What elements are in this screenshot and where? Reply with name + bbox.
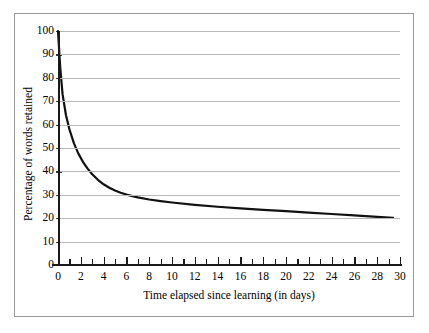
x-tick-label-14: 14 [212, 271, 224, 283]
x-tick-label-0: 0 [55, 271, 61, 283]
gridline-y-20 [58, 218, 400, 219]
x-tick-mark-15 [229, 259, 230, 264]
forgetting-curve-figure: 0102030405060708090100 02468101214161820… [0, 0, 429, 333]
x-tick-label-20: 20 [280, 271, 292, 283]
x-tick-mark-2 [81, 257, 82, 264]
x-tick-mark-4 [104, 257, 105, 264]
x-tick-label-24: 24 [326, 271, 338, 283]
x-tick-mark-1 [69, 259, 70, 264]
x-tick-mark-7 [138, 259, 139, 264]
x-tick-mark-8 [149, 257, 150, 264]
x-tick-mark-28 [377, 257, 378, 264]
x-tick-mark-13 [206, 259, 207, 264]
x-tick-mark-24 [332, 257, 333, 264]
y-tick-label-40: 40 [43, 165, 55, 177]
gridline-y-10 [58, 242, 400, 243]
x-tick-label-12: 12 [189, 271, 201, 283]
y-tick-label-70: 70 [43, 95, 55, 107]
x-tick-mark-6 [126, 257, 127, 264]
gridline-y-60 [58, 125, 400, 126]
x-tick-mark-19 [275, 259, 276, 264]
x-tick-label-30: 30 [394, 271, 406, 283]
y-tick-label-60: 60 [43, 119, 55, 131]
y-tick-label-20: 20 [43, 212, 55, 224]
plot-area [58, 31, 400, 265]
x-tick-label-26: 26 [349, 271, 361, 283]
x-tick-mark-23 [320, 259, 321, 264]
x-tick-label-16: 16 [235, 271, 247, 283]
y-tick-label-50: 50 [43, 142, 55, 154]
y-tick-label-90: 90 [43, 48, 55, 60]
gridline-y-30 [58, 195, 400, 196]
x-tick-mark-12 [195, 257, 196, 264]
y-axis-line [58, 31, 60, 265]
x-tick-mark-17 [252, 259, 253, 264]
gridline-y-50 [58, 148, 400, 149]
x-tick-mark-20 [286, 257, 287, 264]
x-tick-label-4: 4 [101, 271, 107, 283]
y-tick-label-30: 30 [43, 189, 55, 201]
x-tick-mark-22 [309, 257, 310, 264]
x-tick-mark-10 [172, 257, 173, 264]
gridline-y-100 [58, 31, 400, 32]
x-tick-mark-26 [354, 257, 355, 264]
gridline-y-80 [58, 78, 400, 79]
x-tick-label-6: 6 [124, 271, 130, 283]
y-tick-label-100: 100 [37, 25, 54, 37]
gridline-y-70 [58, 101, 400, 102]
x-tick-mark-14 [218, 257, 219, 264]
x-tick-mark-27 [366, 259, 367, 264]
x-tick-mark-3 [92, 259, 93, 264]
x-tick-label-22: 22 [303, 271, 315, 283]
x-axis-line [52, 264, 402, 266]
gridline-y-40 [58, 171, 400, 172]
x-tick-label-18: 18 [257, 271, 269, 283]
x-tick-mark-5 [115, 259, 116, 264]
x-tick-mark-18 [263, 257, 264, 264]
x-tick-label-8: 8 [146, 271, 152, 283]
x-tick-mark-0 [58, 257, 59, 264]
x-tick-mark-25 [343, 259, 344, 264]
x-tick-label-10: 10 [166, 271, 178, 283]
x-tick-mark-11 [183, 259, 184, 264]
x-tick-mark-9 [161, 259, 162, 264]
x-tick-mark-30 [400, 257, 401, 264]
x-axis-title: Time elapsed since learning (in days) [58, 289, 400, 301]
y-axis-title: Percentage of words retained [22, 44, 34, 264]
gridline-y-90 [58, 54, 400, 55]
x-tick-mark-16 [240, 257, 241, 264]
x-tick-label-2: 2 [78, 271, 84, 283]
x-tick-mark-29 [389, 259, 390, 264]
x-tick-mark-21 [297, 259, 298, 264]
x-tick-label-28: 28 [371, 271, 383, 283]
y-tick-label-10: 10 [43, 236, 55, 248]
y-tick-label-80: 80 [43, 72, 55, 84]
